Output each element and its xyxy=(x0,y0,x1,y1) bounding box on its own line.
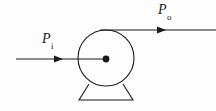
output-power-label: Po xyxy=(158,1,171,20)
diagram-canvas xyxy=(0,0,216,111)
input-power-label-base: P xyxy=(42,31,51,46)
input-power-arrowhead xyxy=(54,56,63,63)
output-power-label-subscript: o xyxy=(167,12,172,22)
input-power-label: Pi xyxy=(42,30,53,49)
motor-power-diagram: Pi Po xyxy=(0,0,216,111)
shaft-center-dot xyxy=(103,56,110,63)
input-power-label-subscript: i xyxy=(51,41,54,51)
output-power-arrowhead xyxy=(157,27,166,34)
output-power-label-base: P xyxy=(158,2,167,17)
